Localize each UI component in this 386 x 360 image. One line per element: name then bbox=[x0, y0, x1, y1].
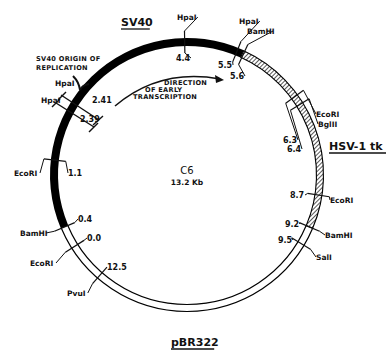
site-position-label: 12.5 bbox=[107, 263, 127, 272]
site-bamhi-0-4: BamHI0.4 bbox=[20, 215, 93, 238]
site-enzyme-label: EcoRI bbox=[30, 259, 53, 268]
site-position-leader bbox=[305, 193, 308, 195]
site-ecori-1-1: EcoRI1.1 bbox=[14, 159, 83, 178]
site-enzyme-label: BglII bbox=[318, 120, 337, 129]
site-position-label: 4.4 bbox=[176, 54, 191, 63]
origin-label-line1: SV40 ORIGIN OF bbox=[36, 55, 100, 63]
origin-label-line2: REPLICATION bbox=[36, 64, 88, 72]
site-position-label: 6.3 bbox=[283, 136, 297, 145]
site-position-label: 5.5 bbox=[218, 61, 233, 70]
plasmid-name: C6 bbox=[180, 165, 193, 176]
arrow-label-line3: TRANSCRIPTION bbox=[133, 93, 197, 101]
site-position-label: 0.0 bbox=[87, 234, 102, 243]
site-position-label: 8.7 bbox=[290, 191, 304, 200]
site-enzyme-label: PvuI bbox=[67, 289, 86, 298]
site-enzyme-label: HpaI bbox=[177, 13, 197, 22]
site-position-label: 9.2 bbox=[285, 220, 299, 229]
site-enzyme-label: HpaI bbox=[239, 17, 259, 26]
origin-hpai-upper-position: 2.41 bbox=[92, 96, 112, 105]
site-position-leader bbox=[299, 223, 300, 224]
site-enzyme-leader bbox=[40, 159, 44, 173]
origin-hpai-upper-enzyme: HpaI bbox=[55, 79, 75, 88]
origin-hpai-lower-enzyme: HpaI bbox=[41, 96, 61, 105]
site-enzyme-label: EcoRI bbox=[330, 196, 353, 205]
origin-hpai-lower-position: 2.39 bbox=[80, 115, 100, 124]
site-enzyme-label: BamHI bbox=[325, 231, 353, 240]
site-enzyme-label: BamHI bbox=[20, 229, 48, 238]
site-enzyme-label: BamHI bbox=[247, 27, 275, 36]
site-position-label: 6.4 bbox=[287, 145, 302, 154]
region-label-hsv: HSV-1 tk bbox=[329, 140, 383, 153]
site-enzyme-leader bbox=[56, 252, 65, 263]
site-hpai-4-4: HpaI4.4 bbox=[176, 13, 198, 63]
site-bamhi-9-2: BamHI9.2 bbox=[285, 220, 353, 240]
plasmid-map-diagram: SV40 ORIGIN OF REPLICATION HpaI HpaI 2.4… bbox=[0, 0, 386, 360]
site-enzyme-leader bbox=[88, 284, 93, 293]
plasmid-size: 13.2 Kb bbox=[171, 178, 204, 187]
site-enzyme-label: EcoRI bbox=[316, 110, 339, 119]
site-enzyme-label: EcoRI bbox=[14, 169, 37, 178]
region-label-pbr: pBR322 bbox=[171, 336, 219, 349]
site-enzyme-label: SalI bbox=[316, 253, 332, 262]
site-position-label: 5.6 bbox=[230, 72, 245, 81]
region-labels: SV40HSV-1 tkpBR322 bbox=[121, 16, 386, 349]
site-position-label: 0.4 bbox=[78, 215, 93, 224]
site-position-label: 1.1 bbox=[68, 169, 83, 178]
site-position-label: 9.5 bbox=[278, 236, 293, 245]
region-label-sv40: SV40 bbox=[121, 16, 153, 29]
